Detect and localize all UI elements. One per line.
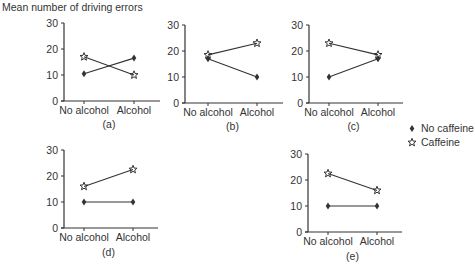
diamond-marker [131,199,136,206]
y-tick-label: 10 [290,200,302,212]
panel-a: 0102030No alcoholAlcohol(a) [46,17,160,131]
x-tick-label: No alcohol [303,235,353,247]
y-tick-label: 30 [167,19,179,31]
star-legend-icon [408,138,416,146]
y-tick-label: 30 [46,17,58,29]
y-tick-label: 10 [291,71,303,83]
series-line-no-caffeine [208,59,257,77]
panel-label: (c) [347,120,359,132]
y-tick-label: 0 [52,95,58,107]
diamond-marker [375,203,380,210]
y-tick-label: 10 [46,196,58,208]
y-tick-label: 30 [46,144,58,156]
panel-label: (b) [226,120,239,132]
series-line-caffeine [84,57,134,75]
y-tick-label: 20 [46,170,58,182]
x-tick-label: Alcohol [116,231,150,243]
series-line-caffeine [208,43,257,55]
y-tick-label: 10 [167,71,179,83]
y-tick-label: 0 [297,97,303,109]
diamond-marker [326,203,331,210]
figure: Mean number of driving errors 0102030No … [0,0,475,270]
star-marker [253,39,261,47]
legend: No caffeineCaffeine [408,122,474,148]
star-marker [325,39,333,47]
panel-label: (d) [102,246,115,258]
y-tick-label: 0 [173,97,179,109]
y-tick-label: 10 [46,69,58,81]
x-tick-label: Alcohol [240,106,274,118]
x-tick-label: No alcohol [183,106,233,118]
y-tick-label: 20 [290,174,302,186]
series-line-caffeine [328,174,377,191]
panel-d: 0102030No alcoholAlcohol(d) [46,144,158,259]
chart-canvas: 0102030No alcoholAlcohol(a)0102030No alc… [0,0,475,270]
star-marker [324,169,332,177]
legend-label: Caffeine [421,136,460,148]
x-tick-label: Alcohol [361,106,395,118]
y-tick-label: 30 [290,148,302,160]
x-tick-label: No alcohol [304,106,354,118]
diamond-marker [327,74,332,81]
y-tick-label: 30 [291,19,303,31]
diamond-marker [132,55,137,62]
y-tick-label: 20 [291,45,303,57]
y-tick-label: 20 [167,45,179,57]
y-tick-label: 0 [296,226,302,238]
diamond-marker [82,70,87,77]
x-tick-label: No alcohol [59,231,109,243]
series-line-no-caffeine [329,59,378,77]
diamond-marker [82,199,87,206]
panel-e: 0102030No alcoholAlcohol(e) [290,148,402,263]
x-tick-label: Alcohol [117,104,151,116]
star-marker [80,53,88,61]
y-tick-label: 0 [52,222,58,234]
x-tick-label: No alcohol [59,104,109,116]
legend-label: No caffeine [421,122,474,134]
panel-label: (e) [346,250,359,262]
panel-b: 0102030No alcoholAlcohol(b) [167,19,283,133]
panel-label: (a) [103,118,116,130]
diamond-legend-icon [410,125,415,132]
series-line-caffeine [84,170,133,187]
panel-c: 0102030No alcoholAlcohol(c) [291,19,403,133]
series-line-caffeine [329,43,378,55]
star-marker [129,165,137,173]
diamond-marker [255,74,260,81]
x-tick-label: Alcohol [360,235,394,247]
y-tick-label: 20 [46,43,58,55]
